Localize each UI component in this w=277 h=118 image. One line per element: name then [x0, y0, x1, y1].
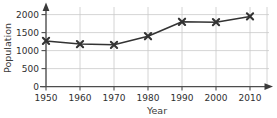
xtick-label-2010: 2010	[239, 93, 262, 103]
y-axis-title: Population	[2, 23, 13, 73]
xtick-label-1950: 1950	[35, 93, 58, 103]
ytick-label-2000: 2000	[16, 10, 39, 20]
xtick-label-1990: 1990	[171, 93, 194, 103]
chart-canvas: 2000 1500 1000 500 0 1950 1960 1970 1980…	[0, 0, 277, 118]
ytick-label-500: 500	[22, 64, 39, 74]
ytick-label-1500: 1500	[16, 28, 39, 38]
xtick-label-1970: 1970	[103, 93, 126, 103]
x-axis-title: Year	[146, 105, 167, 116]
population-line-chart: 2000 1500 1000 500 0 1950 1960 1970 1980…	[0, 0, 277, 118]
xtick-label-1980: 1980	[137, 93, 160, 103]
ytick-label-0: 0	[33, 82, 39, 92]
ytick-label-1000: 1000	[16, 46, 39, 56]
xtick-label-2000: 2000	[205, 93, 228, 103]
xtick-label-1960: 1960	[69, 93, 92, 103]
